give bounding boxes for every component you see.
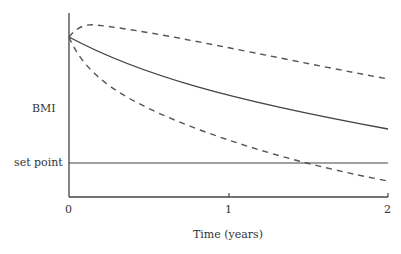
y-axis-label: BMI — [32, 102, 56, 115]
x-tick-label-0: 0 — [65, 203, 72, 216]
upper-dashed-curve — [69, 25, 388, 79]
chart-canvas — [0, 0, 401, 254]
x-axis-label: Time (years) — [193, 228, 263, 241]
expected-bmi-curve — [69, 37, 388, 129]
set-point-label: set point — [14, 156, 63, 169]
x-tick-label-2: 2 — [384, 203, 391, 216]
x-tick-label-1: 1 — [225, 203, 232, 216]
